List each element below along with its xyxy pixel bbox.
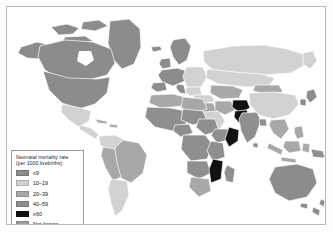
legend-entry-label: Not known xyxy=(33,221,58,225)
legend-swatch xyxy=(16,180,29,186)
legend-entry: 10–19 xyxy=(16,178,80,188)
legend-entry: ≤9 xyxy=(16,168,80,178)
legend-entry: ≥60 xyxy=(16,209,80,219)
region-sulawesi xyxy=(302,143,310,153)
legend-swatch xyxy=(16,211,29,217)
legend-entry-label: 40–59 xyxy=(33,201,48,207)
map-legend: Neonatal mortality rate (per 1000 livebi… xyxy=(11,150,84,225)
region-sri-lanka xyxy=(253,143,258,148)
legend-entry-list: ≤9 10–19 20–39 40–59 ≥60 xyxy=(16,168,80,225)
legend-swatch xyxy=(16,221,29,225)
legend-entry: 40–59 xyxy=(16,199,80,209)
legend-entry-label: 10–19 xyxy=(33,180,48,186)
legend-entry-label: ≥60 xyxy=(33,211,42,217)
legend-swatch xyxy=(16,191,29,197)
figure-panel: Neonatal mortality rate (per 1000 livebi… xyxy=(0,0,333,232)
legend-entry-label: ≤9 xyxy=(33,170,39,176)
map-frame: Neonatal mortality rate (per 1000 livebi… xyxy=(6,6,326,225)
legend-swatch xyxy=(16,201,29,207)
legend-swatch xyxy=(16,170,29,176)
legend-title-line2: (per 1000 livebirths): xyxy=(16,160,80,166)
region-hispaniola xyxy=(109,124,118,128)
region-korea xyxy=(300,99,306,106)
region-bangladesh xyxy=(259,119,267,126)
legend-entry: 20–39 xyxy=(16,188,80,198)
legend-entry: Not known xyxy=(16,219,80,225)
legend-entry-label: 20–39 xyxy=(33,191,48,197)
